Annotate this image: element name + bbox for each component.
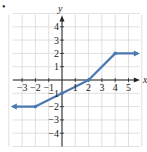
y-tick-label: 4 [54,21,59,32]
x-tick-label: 4 [113,82,118,93]
x-tick-label: −2 [30,82,41,93]
graph: −3−2−1123454321−1−2−3−4 • y x [0,0,147,152]
y-tick-label: 3 [54,35,59,46]
y-tick-label: 1 [54,61,59,72]
y-tick-label: 2 [54,48,59,59]
x-axis-label: x [142,74,147,85]
right-arrow-icon [134,50,140,56]
x-tick-label: 3 [99,82,104,93]
y-tick-label: −2 [48,101,59,112]
axes [13,16,140,147]
y-tick-label: −4 [48,128,59,139]
left-arrow-icon [11,104,17,110]
y-tick-label: −3 [48,114,59,125]
bullet-marker: • [2,1,6,12]
x-tick-label: −3 [17,82,28,93]
x-tick-label: 5 [126,82,131,93]
y-axis-label: y [57,3,63,14]
x-tick-label: 2 [86,82,91,93]
y-tick-label: −1 [48,88,59,99]
x-tick-label: 1 [73,82,78,93]
